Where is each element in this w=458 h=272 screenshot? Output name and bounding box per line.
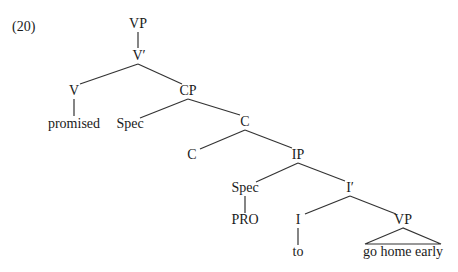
leaf-pro: PRO <box>231 213 258 227</box>
node-spec-ip: Spec <box>231 181 258 195</box>
node-c-head: C <box>187 148 196 162</box>
node-cp: CP <box>179 84 196 98</box>
node-c-bar: C <box>240 115 249 129</box>
leaf-go-home-early: go home early <box>363 245 443 259</box>
node-i-head: I <box>296 213 301 227</box>
leaf-promised: promised <box>48 117 100 131</box>
node-ip: IP <box>292 148 304 162</box>
tree-branches <box>0 0 458 272</box>
node-v: V <box>69 84 79 98</box>
node-i-bar: I′ <box>346 181 354 195</box>
node-v-bar: V′ <box>132 49 145 63</box>
leaf-to: to <box>293 245 304 259</box>
node-spec-cp: Spec <box>116 117 143 131</box>
node-vp-top: VP <box>129 17 147 31</box>
node-vp-low: VP <box>394 213 412 227</box>
